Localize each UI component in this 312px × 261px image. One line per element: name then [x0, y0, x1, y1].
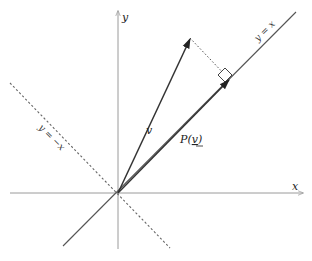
x-axis-label: x: [292, 180, 299, 193]
label-v: v: [146, 124, 153, 137]
vector-projection: [118, 80, 229, 193]
line-y-equals-x: [63, 12, 296, 246]
label-projection-suffix: ): [197, 133, 202, 146]
label-projection: P(v): [179, 133, 202, 146]
y-axis-label: y: [121, 11, 129, 24]
label-y-equals-neg-x: y = −x: [36, 121, 68, 153]
vector-v: [118, 39, 190, 193]
label-projection-prefix: P(: [179, 133, 192, 146]
label-y-equals-x: y = x: [251, 18, 277, 44]
projection-diagram: x y y = x y = −x v P(v): [0, 0, 312, 261]
